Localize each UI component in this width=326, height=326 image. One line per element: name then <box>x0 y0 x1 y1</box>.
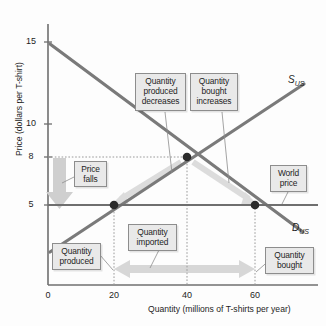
quantity-imported-double-arrow <box>114 260 255 278</box>
callout-qbi-line3: increases <box>194 96 234 106</box>
supply-curve-label: SUS <box>288 74 304 87</box>
callout-price-falls: Price falls <box>74 161 107 187</box>
callout-qpd-line2: produced <box>139 86 182 96</box>
y-axis-title: Price (dollars per T-shirt) <box>14 62 24 156</box>
supply-demand-chart-figure: Price (dollars per T-shirt) 15 10 8 5 0 … <box>0 0 326 326</box>
x-axis-title: Quantity (millions of T-shirts per year) <box>148 304 291 314</box>
callout-world-price-line1: World <box>274 168 303 178</box>
y-tick-label-15: 15 <box>20 36 42 46</box>
y-tick-label-10: 10 <box>20 118 42 128</box>
demand-curve-subscript: US <box>299 228 309 235</box>
leader-world-price <box>282 192 288 204</box>
callout-qp-line1: Quantity <box>56 246 97 256</box>
y-tick-label-8: 8 <box>20 151 42 161</box>
x-tick-label-40: 40 <box>177 290 197 300</box>
callout-price-falls-line1: Price <box>78 164 103 174</box>
callout-world-price: World price <box>270 165 307 192</box>
marker-quantity-bought-60-5 <box>251 201 260 210</box>
callout-qb-line1: Quantity <box>269 250 310 260</box>
callout-price-falls-line2: falls <box>78 174 103 184</box>
demand-movement-arrow <box>193 162 259 206</box>
callout-quantity-bought-increases: Quantity bought increases <box>190 73 238 111</box>
supply-curve-letter: S <box>288 74 295 85</box>
marker-quantity-produced-20-5 <box>110 201 119 210</box>
callout-qpd-line1: Quantity <box>139 76 182 86</box>
callout-quantity-bought: Quantity bought <box>265 247 314 274</box>
callout-quantity-produced: Quantity produced <box>52 243 101 270</box>
callout-qbi-line2: bought <box>194 86 234 96</box>
chart-canvas <box>0 0 326 326</box>
callout-quantity-produced-decreases: Quantity produced decreases <box>135 73 186 111</box>
callout-qi-line1: Quantity <box>132 227 173 237</box>
callout-qpd-line3: decreases <box>139 96 182 106</box>
callout-qb-line2: bought <box>269 260 310 270</box>
leader-qty-produced-decreases <box>165 112 172 173</box>
x-tick-label-0: 0 <box>38 290 58 300</box>
supply-movement-arrow <box>110 162 181 206</box>
x-tick-label-60: 60 <box>245 290 265 300</box>
price-falls-arrow <box>46 158 73 209</box>
marker-equilibrium-40-8 <box>183 153 192 162</box>
y-tick-label-5: 5 <box>20 199 42 209</box>
callout-qi-line2: imported <box>132 237 173 247</box>
callout-qbi-line1: Quantity <box>194 76 234 86</box>
x-tick-label-20: 20 <box>104 290 124 300</box>
callout-world-price-line2: price <box>274 178 303 188</box>
supply-curve-subscript: US <box>295 80 305 87</box>
callout-quantity-imported: Quantity imported <box>128 224 177 251</box>
leader-qty-produced <box>100 255 113 270</box>
demand-curve-label: DUS <box>292 222 309 235</box>
callout-qp-line2: produced <box>56 256 97 266</box>
